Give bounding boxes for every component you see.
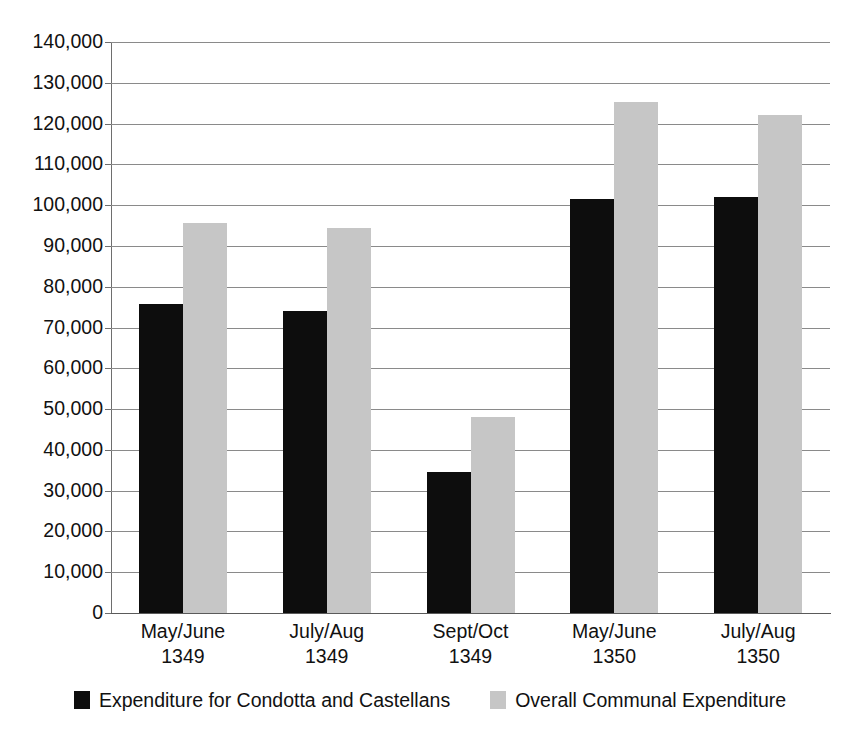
x-tick-label: May/June1350 [542, 619, 686, 669]
y-axis-tick-labels: 140,000130,000120,000110,000100,00090,00… [0, 42, 103, 613]
y-tick-label: 70,000 [43, 318, 103, 338]
x-tick-year: 1350 [542, 644, 686, 669]
y-tick-mark [105, 124, 111, 125]
y-tick-label: 50,000 [43, 399, 103, 419]
y-tick-label: 60,000 [43, 358, 103, 378]
x-tick-year: 1349 [111, 644, 255, 669]
y-tick-label: 0 [92, 603, 103, 623]
bar-group [427, 42, 515, 613]
black-square-swatch [74, 691, 90, 709]
legend-label: Overall Communal Expenditure [515, 689, 786, 712]
y-tick-mark [105, 83, 111, 84]
legend-item: Expenditure for Condotta and Castellans [74, 689, 450, 712]
bar-chart-figure: 140,000130,000120,000110,000100,00090,00… [0, 0, 860, 740]
x-tick-label: Sept/Oct1349 [399, 619, 543, 669]
x-tick-period: July/Aug [686, 619, 830, 644]
y-tick-mark [105, 491, 111, 492]
y-tick-mark [105, 531, 111, 532]
x-tick-label: May/June1349 [111, 619, 255, 669]
bar [183, 223, 227, 613]
bar [427, 472, 471, 613]
plot-area [111, 42, 830, 613]
bar-group [139, 42, 227, 613]
bar [471, 417, 515, 613]
x-tick-year: 1349 [399, 644, 543, 669]
legend-item: Overall Communal Expenditure [490, 689, 786, 712]
y-tick-mark [105, 450, 111, 451]
x-tick-period: July/Aug [255, 619, 399, 644]
y-tick-label: 80,000 [43, 277, 103, 297]
chart-legend: Expenditure for Condotta and CastellansO… [0, 685, 860, 715]
y-tick-mark [105, 287, 111, 288]
y-tick-label: 100,000 [33, 195, 104, 215]
y-tick-mark [105, 409, 111, 410]
bar [327, 228, 371, 613]
bar [758, 115, 802, 613]
y-tick-mark [105, 42, 111, 43]
x-tick-label: July/Aug1350 [686, 619, 830, 669]
y-tick-label: 20,000 [43, 521, 103, 541]
y-tick-mark [105, 164, 111, 165]
x-tick-period: May/June [111, 619, 255, 644]
y-tick-mark [105, 368, 111, 369]
y-tick-mark [105, 572, 111, 573]
y-tick-mark [105, 613, 111, 614]
y-tick-label: 120,000 [33, 114, 104, 134]
bar [714, 197, 758, 613]
y-tick-label: 110,000 [34, 154, 103, 174]
y-tick-label: 140,000 [33, 32, 104, 52]
x-tick-period: Sept/Oct [399, 619, 543, 644]
bar [283, 311, 327, 613]
bar-group [714, 42, 802, 613]
y-tick-label: 40,000 [43, 440, 103, 460]
y-tick-mark [105, 205, 111, 206]
y-tick-mark [105, 328, 111, 329]
x-tick-year: 1350 [686, 644, 830, 669]
y-tick-label: 10,000 [43, 562, 103, 582]
gray-square-swatch [490, 691, 506, 709]
x-tick-period: May/June [542, 619, 686, 644]
bar-group [570, 42, 658, 613]
x-tick-year: 1349 [255, 644, 399, 669]
y-tick-mark [105, 246, 111, 247]
y-tick-label: 30,000 [43, 481, 103, 501]
bar [139, 304, 183, 613]
legend-label: Expenditure for Condotta and Castellans [99, 689, 450, 712]
bar-group [283, 42, 371, 613]
x-axis-tick-labels: May/June1349July/Aug1349Sept/Oct1349May/… [111, 619, 830, 681]
bar [570, 199, 614, 613]
x-tick-label: July/Aug1349 [255, 619, 399, 669]
x-axis-line [111, 613, 831, 614]
chart-title-clipped [0, 0, 860, 4]
bar [614, 102, 658, 613]
y-tick-label: 130,000 [33, 73, 104, 93]
y-tick-label: 90,000 [43, 236, 103, 256]
